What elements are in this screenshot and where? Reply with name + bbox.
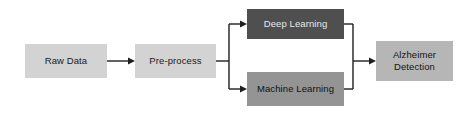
edge-pre-process-split	[216, 24, 229, 89]
node-deep-learning[interactable]: Deep Learning	[247, 9, 344, 39]
node-alzheimer-detection[interactable]: Alzheimer Detection	[376, 41, 453, 81]
edge-merge-to-alzheimer-detection	[353, 57, 376, 64]
node-alzheimer-detection-label: Alzheimer Detection	[379, 49, 450, 73]
node-pre-process[interactable]: Pre-process	[135, 44, 216, 78]
node-raw-data-label: Raw Data	[45, 55, 88, 67]
edge-deep-learning-to-merge	[344, 24, 353, 61]
edge-raw-data-to-pre-process	[107, 57, 135, 64]
edge-machine-learning-to-merge	[344, 61, 353, 89]
node-machine-learning[interactable]: Machine Learning	[247, 72, 344, 106]
node-deep-learning-label: Deep Learning	[264, 18, 328, 30]
node-raw-data[interactable]: Raw Data	[25, 44, 107, 78]
edge-pre-process-to-machine-learning	[229, 85, 247, 92]
edge-pre-process-to-deep-learning	[229, 20, 247, 27]
node-machine-learning-label: Machine Learning	[257, 83, 334, 95]
flowchart-canvas: Raw Data Pre-process Deep Learning Machi…	[0, 0, 470, 117]
node-pre-process-label: Pre-process	[149, 55, 201, 67]
